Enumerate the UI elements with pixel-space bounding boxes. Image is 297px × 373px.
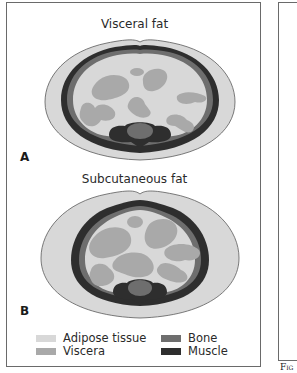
legend-item-bone: Bone xyxy=(161,331,217,345)
panel-a-title: Visceral fat xyxy=(7,17,262,31)
legend-label: Muscle xyxy=(188,344,228,358)
panel-a-label: A xyxy=(20,150,29,164)
legend-label: Viscera xyxy=(63,344,105,358)
legend-label: Adipose tissue xyxy=(63,331,146,345)
legend-item-viscera: Viscera xyxy=(36,344,105,358)
muscle-swatch-icon xyxy=(161,348,181,355)
legend-label: Bone xyxy=(188,331,217,345)
subcutaneous-fat-cross-section xyxy=(35,186,245,322)
viscera-swatch-icon xyxy=(36,348,56,355)
legend-item-muscle: Muscle xyxy=(161,344,228,358)
adipose-swatch-icon xyxy=(36,335,56,342)
figure-panel-right xyxy=(278,2,297,361)
figure-panel-left: Visceral fat A Subcutaneous fat xyxy=(6,2,261,367)
panel-b-title: Subcutaneous fat xyxy=(7,172,262,186)
legend-item-adipose: Adipose tissue xyxy=(36,331,146,345)
panel-b-label: B xyxy=(20,304,29,318)
figure-caption: Fig xyxy=(280,362,293,372)
visceral-fat-cross-section xyxy=(37,36,243,166)
bone-swatch-icon xyxy=(161,335,181,342)
